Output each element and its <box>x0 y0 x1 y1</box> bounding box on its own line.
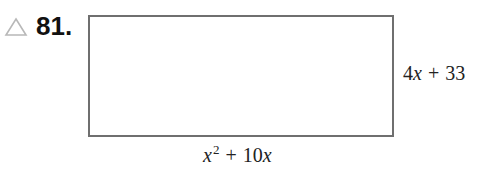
bottom-coef: 10 <box>243 144 263 166</box>
rectangle-figure <box>88 15 394 137</box>
bottom-var1: x <box>203 144 212 166</box>
bottom-var2: x <box>263 144 272 166</box>
side-length-label: 4x+33 <box>403 62 465 85</box>
bottom-exponent: 2 <box>213 142 220 157</box>
bottom-op: + <box>225 144 236 166</box>
exercise-problem: 81. 4x+33 x2+10x <box>0 0 477 184</box>
problem-number: 81. <box>36 11 72 41</box>
side-var: x <box>413 62 422 84</box>
triangle-icon <box>4 17 28 37</box>
side-op: + <box>428 62 439 84</box>
bottom-length-label: x2+10x <box>203 144 272 167</box>
side-const: 33 <box>445 62 465 84</box>
side-coef: 4 <box>403 62 413 84</box>
